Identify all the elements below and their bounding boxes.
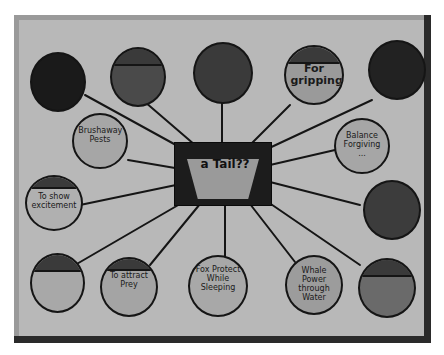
mind-map-node	[30, 253, 85, 313]
node-text: To show excitement	[31, 192, 76, 210]
mind-map-node: Brushaway Pests	[72, 113, 128, 169]
node-cap	[27, 177, 81, 189]
mind-map-node	[358, 258, 416, 318]
central-topic-box: a Tail??	[174, 142, 272, 206]
node-cap	[32, 255, 83, 272]
node-cap	[360, 260, 414, 277]
mind-map-node: Whale Power through Water	[285, 255, 343, 315]
mind-map-node	[193, 42, 253, 104]
node-text: Fox Protect While Sleeping	[194, 265, 241, 292]
mind-map-node	[110, 47, 166, 107]
node-cap	[112, 49, 164, 66]
mind-map-node: Fox Protect While Sleeping	[188, 255, 248, 317]
node-text: Balance Forgiving ...	[340, 131, 384, 158]
mind-map-node: To show excitement	[25, 175, 83, 231]
node-text: To attract Prey	[106, 271, 151, 289]
mind-map-node: To attract Prey	[100, 257, 158, 317]
node-text: Whale Power through Water	[291, 266, 336, 302]
mind-map-node	[363, 180, 421, 240]
mind-map-node: For gripping	[284, 45, 344, 105]
mind-map-node	[368, 40, 426, 100]
mind-map-node	[30, 52, 86, 112]
mind-map-node: Balance Forgiving ...	[334, 118, 390, 174]
node-cap	[102, 259, 156, 271]
node-text: Brushaway Pests	[78, 126, 122, 144]
central-topic-label: a Tail??	[179, 157, 271, 171]
node-text: For gripping	[290, 63, 337, 87]
